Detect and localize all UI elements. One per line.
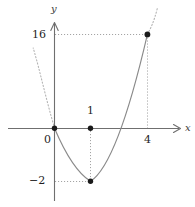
curve-dotted-left bbox=[33, 48, 54, 128]
x-tick-label-0: 0 bbox=[44, 134, 51, 145]
data-point-x1 bbox=[88, 126, 93, 131]
curve-dotted-right bbox=[147, 9, 157, 35]
y-tick-label-16: 16 bbox=[32, 29, 46, 40]
y-axis-label: y bbox=[51, 3, 57, 14]
curve-parabola-solid bbox=[55, 34, 148, 181]
y-tick-label-minus2: −2 bbox=[29, 175, 45, 186]
x-tick-label-1: 1 bbox=[87, 105, 94, 116]
data-point-4-16 bbox=[145, 32, 151, 38]
x-tick-label-4: 4 bbox=[144, 134, 151, 145]
x-axis-label: x bbox=[185, 122, 191, 133]
data-point-vertex bbox=[88, 179, 93, 184]
data-point-origin bbox=[52, 126, 57, 131]
parabola-chart-figure: y x 16 0 1 4 −2 bbox=[0, 0, 195, 207]
